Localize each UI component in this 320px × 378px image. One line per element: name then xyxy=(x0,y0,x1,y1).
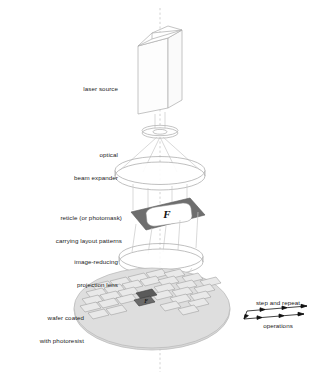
label-beam-expander: optical beam expander xyxy=(40,136,118,197)
label-beam-expander-line-2: beam expander xyxy=(40,174,118,182)
diagram-canvas: F xyxy=(0,0,320,378)
label-step-repeat: step and repeat operations xyxy=(240,284,316,345)
label-projection-lens-line-1: image-reducing xyxy=(36,258,118,266)
label-step-repeat-line-2: operations xyxy=(240,322,316,330)
condenser-lens xyxy=(142,125,178,138)
label-beam-expander-line-1: optical xyxy=(40,151,118,159)
label-projection-lens: image-reducing projection lens xyxy=(36,243,118,304)
label-step-repeat-line-1: step and repeat xyxy=(240,299,316,307)
label-projection-lens-line-2: projection lens xyxy=(36,281,118,289)
label-laser-source-line-1: laser source xyxy=(46,85,118,93)
label-wafer-line-2: with photoresist xyxy=(6,337,84,345)
svg-text:F: F xyxy=(162,208,171,220)
label-reticle-line-1: reticle (or photomask) xyxy=(18,214,122,222)
label-wafer: wafer coated with photoresist xyxy=(6,299,84,360)
highlighted-die-glyph: F xyxy=(144,298,148,304)
label-laser-source: laser source xyxy=(46,70,118,108)
reticle-glyph-F: F xyxy=(162,208,171,220)
label-wafer-line-1: wafer coated xyxy=(6,314,84,322)
laser-source-box xyxy=(138,26,182,114)
